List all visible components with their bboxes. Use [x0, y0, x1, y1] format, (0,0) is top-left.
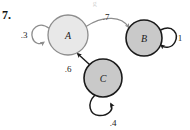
edge-b-to-b-path [161, 28, 177, 47]
edge-weight-a-to-b: .7 [103, 12, 110, 22]
edge-a-to-a-path [32, 25, 49, 43]
edge-c-to-a-path [78, 54, 90, 65]
state-label-b: B [141, 33, 147, 44]
edge-weight-a-to-a: .3 [21, 30, 28, 40]
state-node-c[interactable]: C [84, 59, 122, 97]
edge-weight-c-to-c: .4 [110, 118, 117, 128]
state-node-a[interactable]: A [48, 15, 88, 55]
markov-chain-figure: g 7. [0, 0, 190, 130]
edge-c-to-a [78, 54, 90, 65]
state-label-c: C [100, 73, 107, 84]
edge-weight-b-to-b: 1 [178, 33, 183, 43]
state-label-a: A [64, 30, 72, 41]
edge-a-to-a [32, 25, 49, 43]
edge-c-to-c [90, 95, 112, 116]
state-node-b[interactable]: B [126, 20, 162, 56]
edge-c-to-c-path [90, 95, 112, 116]
edge-b-to-b [161, 28, 177, 47]
state-diagram-canvas: A B C .3 .7 1 .6 .4 [0, 0, 190, 130]
edge-weight-c-to-a: .6 [65, 64, 72, 74]
